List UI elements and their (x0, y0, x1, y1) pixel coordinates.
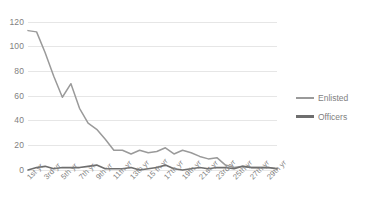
y-axis-tick: 20 (0, 140, 24, 150)
y-axis-tick: 40 (0, 115, 24, 125)
legend-swatch-officers (296, 115, 314, 118)
legend-item-enlisted[interactable]: Enlisted (296, 88, 366, 107)
y-axis-tick: 100 (0, 41, 24, 51)
y-axis-tick: 0 (0, 165, 24, 175)
y-axis-tick: 120 (0, 17, 24, 27)
legend-swatch-enlisted (296, 97, 314, 99)
line-chart: 020406080100120 1st yr3rd yr5th yr7th yr… (0, 0, 366, 219)
series-line-enlisted (28, 31, 277, 169)
legend-label-officers: Officers (318, 112, 347, 122)
legend-label-enlisted: Enlisted (318, 93, 348, 103)
y-axis-tick: 60 (0, 91, 24, 101)
series-lines (28, 31, 277, 170)
chart-legend: Enlisted Officers (296, 88, 366, 126)
gridlines (28, 22, 277, 170)
legend-item-officers[interactable]: Officers (296, 107, 366, 126)
y-axis-tick: 80 (0, 66, 24, 76)
